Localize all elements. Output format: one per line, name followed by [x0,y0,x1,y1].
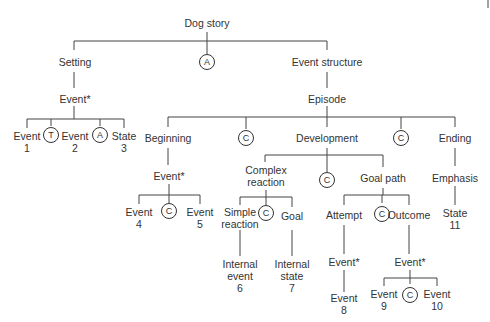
node-internal-event-6: Internalevent6 [222,258,257,294]
node-complex-reaction: Complexreaction [245,164,286,188]
node-setting-event: Event* [60,93,91,105]
node-beginning: Beginning [145,132,192,144]
node-event-4: Event4 [126,206,153,230]
node-goal: Goal [281,210,303,222]
node-simple-reaction: Simplereaction [221,206,258,230]
node-event-5: Event5 [187,206,214,230]
story-grammar-tree: Dog story Setting A Event structure Even… [0,0,490,322]
connector-c-1: C [238,130,254,146]
connector-c-3: C [161,203,177,219]
node-episode: Episode [308,93,346,105]
node-attempt-event: Event* [329,256,360,268]
connector-t: T [43,127,59,143]
node-state-3: State3 [112,130,137,154]
node-internal-state-7: Internalstate7 [274,258,309,294]
node-emphasis: Emphasis [432,172,478,184]
node-outcome-event: Event* [395,256,426,268]
node-state-11: State11 [443,207,468,231]
node-attempt: Attempt [326,209,362,221]
connector-a-root: A [199,54,215,70]
node-beginning-event: Event* [154,170,185,182]
node-development: Development [296,132,358,144]
node-event-2: Event2 [62,130,89,154]
connector-c-4: C [319,172,335,188]
connector-c-5: C [258,205,274,221]
node-event-1: Event1 [14,130,41,154]
node-event-10: Event10 [424,288,451,312]
connector-c-7: C [402,287,418,303]
node-dog-story: Dog story [185,17,230,29]
node-goal-path: Goal path [360,172,406,184]
node-setting: Setting [59,56,92,68]
node-event-9: Event9 [371,288,398,312]
node-outcome: Outcome [388,209,431,221]
connector-a-setting: A [92,127,108,143]
node-event-8: Event8 [331,292,358,316]
connector-c-2: C [393,130,409,146]
node-event-structure: Event structure [292,56,363,68]
node-ending: Ending [439,132,472,144]
